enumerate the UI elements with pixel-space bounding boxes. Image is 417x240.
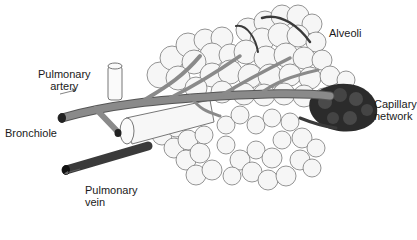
- label-pulmonary-vein-line1: Pulmonary: [85, 184, 138, 196]
- label-capillary-network-line2: network: [374, 110, 417, 122]
- label-pulmonary-vein: Pulmonary vein: [85, 184, 138, 208]
- label-bronchiole: Bronchiole: [5, 127, 57, 139]
- label-alveoli: Alveoli: [329, 27, 361, 39]
- label-capillary-network: Capillary network: [374, 98, 417, 122]
- label-pulmonary-artery-line2: artery: [38, 80, 91, 92]
- label-pulmonary-artery-line1: Pulmonary: [38, 68, 91, 80]
- label-pulmonary-artery: Pulmonary artery: [38, 68, 91, 92]
- label-pulmonary-vein-line2: vein: [85, 196, 138, 208]
- flow-arrows: [60, 88, 80, 175]
- label-capillary-network-line1: Capillary: [374, 98, 417, 110]
